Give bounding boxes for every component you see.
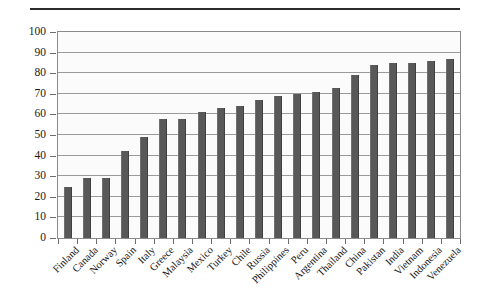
bar <box>370 65 378 238</box>
bar <box>140 137 148 238</box>
y-tick-label: 60 <box>35 109 47 121</box>
y-tick-mark <box>50 156 56 157</box>
y-tick-mark <box>50 53 56 54</box>
bar <box>332 88 340 238</box>
y-tick-mark <box>50 197 56 198</box>
bar <box>293 94 301 238</box>
x-tick-mark <box>441 239 442 244</box>
bar <box>178 119 186 238</box>
x-tick-mark <box>58 239 59 244</box>
y-tick-label: 100 <box>29 26 46 38</box>
bar-chart-figure: 0102030405060708090100 FinlandCanadaNorw… <box>0 0 488 305</box>
bar-slot <box>58 32 77 238</box>
bar <box>102 178 110 238</box>
y-tick-mark <box>50 217 56 218</box>
y-axis: 0102030405060708090100 <box>0 0 57 305</box>
x-tick-mark <box>460 239 461 244</box>
bar <box>389 63 397 238</box>
x-tick-mark <box>403 239 404 244</box>
x-tick-mark <box>269 239 270 244</box>
bar-slot <box>173 32 192 238</box>
bar <box>64 187 72 239</box>
bar-slot <box>154 32 173 238</box>
y-tick-mark <box>50 32 56 33</box>
bar-slot <box>211 32 230 238</box>
x-tick-mark <box>383 239 384 244</box>
bar-slot <box>326 32 345 238</box>
y-tick-label: 0 <box>40 232 46 244</box>
y-tick-mark <box>50 176 56 177</box>
bar-slot <box>364 32 383 238</box>
x-tick-mark <box>307 239 308 244</box>
bar <box>198 112 206 238</box>
bar-slot <box>307 32 326 238</box>
bar-slot <box>441 32 460 238</box>
y-tick-mark <box>50 114 56 115</box>
x-tick-mark <box>173 239 174 244</box>
x-tick-mark <box>154 239 155 244</box>
bar <box>255 100 263 238</box>
bar <box>312 92 320 238</box>
x-tick-mark <box>135 239 136 244</box>
y-tick-mark <box>50 73 56 74</box>
bar-slot <box>422 32 441 238</box>
bar-slot <box>288 32 307 238</box>
y-tick-label: 70 <box>35 88 47 100</box>
bar-slot <box>383 32 402 238</box>
bar <box>159 119 167 238</box>
y-tick-label: 10 <box>35 212 47 224</box>
y-tick-label: 90 <box>35 47 47 59</box>
x-tick-mark <box>288 239 289 244</box>
y-tick-label: 40 <box>35 150 47 162</box>
x-tick-mark <box>364 239 365 244</box>
bar-slot <box>135 32 154 238</box>
x-tick-mark <box>77 239 78 244</box>
y-tick-label: 80 <box>35 67 47 79</box>
y-tick-mark <box>50 135 56 136</box>
y-tick-label: 20 <box>35 191 47 203</box>
top-horizontal-rule <box>30 8 460 10</box>
x-tick-mark <box>326 239 327 244</box>
bar <box>408 63 416 238</box>
bar <box>83 178 91 238</box>
bar-slot <box>192 32 211 238</box>
x-tick-mark <box>345 239 346 244</box>
y-tick-label: 50 <box>35 129 47 141</box>
y-tick-mark <box>50 238 56 239</box>
y-tick-mark <box>50 94 56 95</box>
bar <box>351 75 359 238</box>
bar <box>446 59 454 238</box>
bar-slot <box>403 32 422 238</box>
x-tick-mark <box>230 239 231 244</box>
x-tick-mark <box>422 239 423 244</box>
bar-slot <box>345 32 364 238</box>
bar <box>274 96 282 238</box>
x-axis: FinlandCanadaNorwaySpainItalyGreeceMalay… <box>58 245 460 305</box>
bar <box>121 151 129 238</box>
bar-slot <box>115 32 134 238</box>
bar-slot <box>269 32 288 238</box>
x-tick-mark <box>211 239 212 244</box>
x-tick-mark <box>96 239 97 244</box>
bar-slot <box>77 32 96 238</box>
bar-slot <box>96 32 115 238</box>
bar <box>217 108 225 238</box>
x-tick-mark <box>115 239 116 244</box>
y-tick-label: 30 <box>35 170 47 182</box>
bar-slot <box>249 32 268 238</box>
bar <box>427 61 435 238</box>
bar <box>236 106 244 238</box>
x-tick-mark <box>192 239 193 244</box>
x-tick-mark <box>249 239 250 244</box>
bars-group <box>58 32 460 238</box>
bar-slot <box>230 32 249 238</box>
